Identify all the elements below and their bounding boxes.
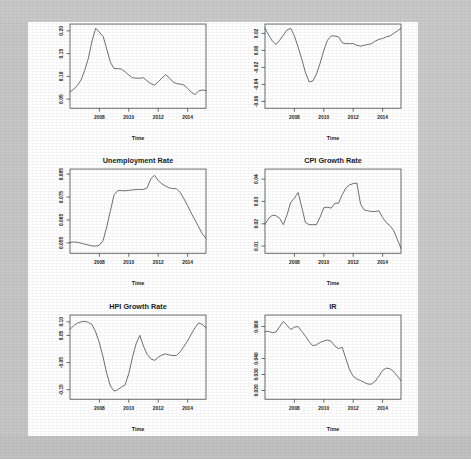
chart-title: Unemployment Rate xyxy=(103,156,173,165)
x-tick-label: 2008 xyxy=(94,261,105,266)
data-series-line xyxy=(70,176,206,247)
x-tick-label: 2012 xyxy=(348,261,359,266)
y-tick-label: 0.02 xyxy=(254,219,259,229)
y-axis-ticks: 0.010.020.030.04 xyxy=(254,174,265,251)
x-axis-ticks: 2008201020122014 xyxy=(94,254,193,266)
chart-ir: IR 0.0200.0300.0400.060 2008201020122014… xyxy=(223,291,418,436)
y-tick-label: 0.065 xyxy=(59,214,64,227)
x-tick-label: 2008 xyxy=(289,261,300,266)
x-axis-label: Time xyxy=(132,426,144,432)
plot-frame xyxy=(265,315,401,399)
x-tick-label: 2010 xyxy=(123,406,134,411)
scan-border-right xyxy=(418,22,471,459)
y-tick-label: 0.075 xyxy=(59,191,64,204)
y-axis-ticks: 0.020.00-0.02-0.04-0.06 xyxy=(254,28,265,107)
chart-title: IR xyxy=(329,302,337,311)
y-tick-label: 0.15 xyxy=(59,49,64,59)
x-axis-label: Time xyxy=(132,281,144,287)
y-tick-label: -0.05 xyxy=(59,356,64,367)
y-tick-label: 0.10 xyxy=(59,71,64,81)
x-axis-ticks: 2008201020122014 xyxy=(289,399,388,411)
x-tick-label: 2012 xyxy=(348,406,359,411)
x-tick-label: 2014 xyxy=(182,261,193,266)
x-tick-label: 2014 xyxy=(182,406,193,411)
x-tick-label: 2014 xyxy=(377,261,388,266)
figure-panel-grid: LGD Rate 0.050.100.150.20 20082010201220… xyxy=(28,0,418,436)
x-tick-label: 2014 xyxy=(377,115,388,120)
x-axis-label: Time xyxy=(132,135,144,141)
x-axis-ticks: 2008201020122014 xyxy=(289,108,388,120)
x-axis-label: Time xyxy=(327,426,339,432)
x-tick-label: 2012 xyxy=(153,261,164,266)
plot-frame xyxy=(265,24,401,108)
x-tick-label: 2012 xyxy=(348,115,359,120)
x-tick-label: 2014 xyxy=(377,406,388,411)
y-tick-label: 0.085 xyxy=(59,168,64,181)
y-tick-label: 0.03 xyxy=(254,197,259,207)
y-tick-label: 0.02 xyxy=(254,28,259,38)
y-tick-label: 0.04 xyxy=(254,174,259,184)
y-axis-ticks: -0.15-0.050.050.10 xyxy=(59,316,70,395)
x-tick-label: 2008 xyxy=(289,115,300,120)
x-tick-label: 2012 xyxy=(153,115,164,120)
y-tick-label: -0.04 xyxy=(254,79,259,90)
x-tick-label: 2010 xyxy=(318,115,329,120)
y-tick-label: 0.01 xyxy=(254,241,259,251)
x-axis-label: Time xyxy=(327,135,339,141)
y-tick-label: -0.06 xyxy=(254,96,259,107)
x-tick-label: 2008 xyxy=(289,406,300,411)
data-series-line xyxy=(265,321,401,384)
scan-border-bottom xyxy=(0,436,471,459)
plot-frame xyxy=(70,169,206,253)
y-tick-label: 0.05 xyxy=(59,330,64,340)
y-tick-label: 0.020 xyxy=(254,384,259,397)
x-axis-ticks: 2008201020122014 xyxy=(94,108,193,120)
chart-panel-hpi-growth-rate: HPI Growth Rate -0.15-0.050.050.10 20082… xyxy=(28,291,223,436)
x-tick-label: 2012 xyxy=(153,406,164,411)
plot-frame xyxy=(70,24,206,108)
chart-cpi-growth-rate: CPI Growth Rate 0.010.020.030.04 2008201… xyxy=(223,145,418,290)
y-tick-label: 0.055 xyxy=(59,237,64,250)
scan-border-left xyxy=(0,22,28,436)
x-tick-label: 2008 xyxy=(94,406,105,411)
y-tick-label: 0.10 xyxy=(59,316,64,326)
x-tick-label: 2010 xyxy=(318,406,329,411)
y-tick-label: 0.00 xyxy=(254,45,259,55)
y-tick-label: -0.15 xyxy=(59,384,64,395)
y-tick-label: -0.02 xyxy=(254,62,259,73)
y-tick-label: 0.040 xyxy=(254,352,259,365)
y-axis-ticks: 0.050.100.150.20 xyxy=(59,26,70,104)
chart-panel-cpi-growth-rate: CPI Growth Rate 0.010.020.030.04 2008201… xyxy=(223,145,418,290)
x-tick-label: 2010 xyxy=(123,115,134,120)
x-tick-label: 2008 xyxy=(94,115,105,120)
chart-panel-ir: IR 0.0200.0300.0400.060 2008201020122014… xyxy=(223,291,418,436)
data-series-line xyxy=(70,28,206,94)
x-tick-label: 2010 xyxy=(123,261,134,266)
data-series-line xyxy=(265,28,401,82)
x-axis-ticks: 2008201020122014 xyxy=(94,399,193,411)
chart-hpi-growth-rate: HPI Growth Rate -0.15-0.050.050.10 20082… xyxy=(28,291,223,436)
scan-border-top xyxy=(0,0,471,22)
x-axis-label: Time xyxy=(327,281,339,287)
x-tick-label: 2010 xyxy=(318,261,329,266)
chart-unemployment-rate: Unemployment Rate 0.0550.0650.0750.085 2… xyxy=(28,145,223,290)
screenshot-root: { "page": { "background_color": "#ffffff… xyxy=(0,0,471,459)
plot-frame xyxy=(265,169,401,253)
chart-title: CPI Growth Rate xyxy=(304,156,362,165)
data-series-line xyxy=(70,321,206,391)
y-tick-label: 0.20 xyxy=(59,26,64,36)
y-axis-ticks: 0.0200.0300.0400.060 xyxy=(254,320,265,396)
y-tick-label: 0.05 xyxy=(59,94,64,104)
scanned-page: LGD Rate 0.050.100.150.20 20082010201220… xyxy=(28,0,418,436)
data-series-line xyxy=(265,183,401,248)
y-tick-label: 0.060 xyxy=(254,320,259,333)
plot-frame xyxy=(70,315,206,399)
y-axis-ticks: 0.0550.0650.0750.085 xyxy=(59,168,70,249)
x-tick-label: 2014 xyxy=(182,115,193,120)
y-tick-label: 0.030 xyxy=(254,368,259,381)
chart-title: HPI Growth Rate xyxy=(109,302,167,311)
chart-panel-unemployment-rate: Unemployment Rate 0.0550.0650.0750.085 2… xyxy=(28,145,223,290)
x-axis-ticks: 2008201020122014 xyxy=(289,254,388,266)
